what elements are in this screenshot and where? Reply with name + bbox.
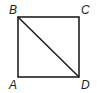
vertex-label-d: D — [81, 79, 90, 91]
diagonal-bd — [18, 17, 79, 77]
vertex-label-c: C — [81, 4, 90, 16]
vertex-label-a: A — [9, 79, 17, 91]
vertex-label-b: B — [9, 4, 17, 16]
